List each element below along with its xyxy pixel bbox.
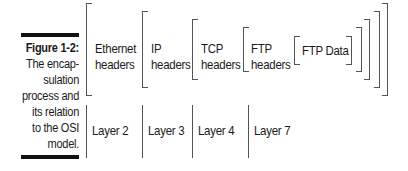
- layer-4-label: Layer 4: [198, 123, 234, 138]
- layer-2-label: Layer 2: [92, 123, 128, 138]
- ftp-bracket-close: [356, 27, 362, 72]
- layer-7-label: Layer 7: [254, 123, 290, 138]
- layer-divider: [192, 105, 193, 158]
- figure-number: Figure 1-2:: [26, 41, 79, 55]
- figure-caption: Figure 1-2: The encap- sulation process …: [9, 40, 79, 152]
- layer-divider: [86, 105, 87, 158]
- ethernet-bracket-open: [86, 3, 92, 96]
- layer-3-label: Layer 3: [148, 123, 184, 138]
- caption-bottom-rule: [21, 155, 79, 159]
- tcp-bracket-open: [192, 19, 198, 80]
- ftp-data-bracket-open: [294, 36, 300, 65]
- ip-headers-label: IPheaders: [151, 41, 191, 73]
- ftp-bracket-open: [243, 27, 249, 72]
- caption-top-rule: [21, 33, 79, 37]
- ethernet-headers-label: Ethernetheaders: [95, 41, 136, 73]
- tcp-headers-label: TCPheaders: [201, 41, 241, 73]
- ftp-headers-label: FTPheaders: [251, 41, 291, 73]
- layer-divider: [142, 105, 143, 158]
- tcp-bracket-close: [364, 19, 370, 80]
- layer-divider: [248, 105, 249, 158]
- ftp-data-label: FTP Data: [302, 43, 349, 59]
- ethernet-bracket-close: [382, 3, 388, 96]
- ip-bracket-close: [374, 11, 380, 88]
- ip-bracket-open: [142, 11, 148, 88]
